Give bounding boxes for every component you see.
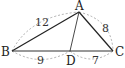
triangle-diagram: A B C D 12 8 9 7 bbox=[0, 0, 125, 68]
label-b: B bbox=[1, 45, 10, 59]
label-a: A bbox=[74, 0, 84, 13]
length-ac: 8 bbox=[102, 22, 109, 35]
segment-ad bbox=[70, 12, 79, 51]
length-ab: 12 bbox=[35, 16, 49, 29]
length-bd: 9 bbox=[37, 54, 44, 67]
length-dc: 7 bbox=[92, 54, 99, 67]
label-c: C bbox=[115, 45, 124, 59]
label-d: D bbox=[66, 54, 76, 68]
